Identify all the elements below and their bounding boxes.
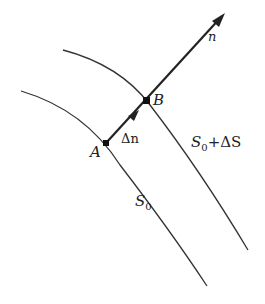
point-a [103, 140, 109, 146]
label-s0-s: S [135, 192, 145, 210]
label-s0-sub: 0 [145, 201, 151, 212]
label-point-a: A [90, 145, 101, 160]
label-s0: S0 [135, 194, 152, 212]
label-s0ds-suffix: +ΔS [208, 133, 242, 151]
point-b [143, 97, 150, 104]
curve-s0 [21, 91, 207, 286]
label-delta-n: Δn [121, 132, 139, 145]
diagram-canvas: A B n Δn S0+ΔS S0 [0, 0, 265, 304]
label-point-b: B [153, 93, 164, 108]
label-s0ds-s: S [191, 133, 201, 151]
label-vector-n: n [208, 30, 216, 43]
label-s0-plus-delta-s: S0+ΔS [191, 135, 241, 153]
